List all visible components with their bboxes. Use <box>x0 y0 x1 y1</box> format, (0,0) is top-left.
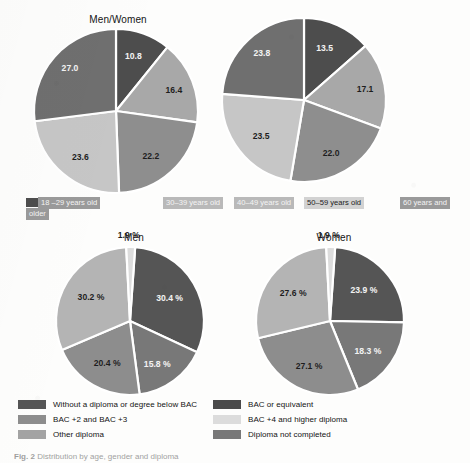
pie-canvas-men-women: 10.816.422.223.627.0 <box>28 27 208 195</box>
pie-svg-top-right <box>216 16 396 184</box>
pie-slice <box>222 18 304 100</box>
figure-root: Men/Women 10.816.422.223.627.0 13.517.12… <box>0 0 470 463</box>
diploma-legend-label-2: BAC +2 and BAC +3 <box>53 415 127 424</box>
pie-slice <box>256 247 330 338</box>
pie-title-men: Men <box>48 232 220 243</box>
diploma-legend-swatch-1 <box>213 400 241 409</box>
pie-chart-top-right: 13.517.122.023.523.8 <box>216 14 396 184</box>
pie-chart-men: Men 30.4 %15.8 %20.4 %30.2 %1.9 % <box>48 232 220 397</box>
pie-canvas-top-right: 13.517.122.023.523.8 <box>216 16 396 184</box>
diploma-legend-swatch-4 <box>18 430 46 439</box>
age-legend-item-4[interactable]: 60 years and <box>400 197 450 209</box>
diploma-legend-item-2[interactable]: BAC +2 and BAC +3 <box>18 415 127 424</box>
age-legend-item-1[interactable]: 30–39 years old <box>163 197 223 209</box>
figure-caption-text: Distribution by age, gender and diploma <box>37 452 178 461</box>
pie-svg-men-women <box>28 27 208 195</box>
diploma-legend-swatch-3 <box>213 415 241 424</box>
diploma-legend-swatch-2 <box>18 415 46 424</box>
diploma-legend-label-5: Diploma not completed <box>248 430 331 439</box>
pie-chart-women: Women 23.9 %18.3 %27.1 %27.6 %1.9 % <box>248 232 420 397</box>
diploma-legend: Without a diploma or degree below BAC BA… <box>0 398 470 446</box>
pie-title-men-women: Men/Women <box>28 14 208 25</box>
pie-svg-women <box>248 245 420 397</box>
age-legend: 18 –29 years old older 30–39 years old 4… <box>0 196 470 228</box>
pie-slice <box>116 111 197 193</box>
diploma-legend-label-3: BAC +4 and higher diploma <box>248 415 347 424</box>
pie-canvas-men: 30.4 %15.8 %20.4 %30.2 %1.9 % <box>48 245 220 397</box>
diploma-legend-item-1[interactable]: BAC or equivalent <box>213 400 313 409</box>
diploma-legend-label-1: BAC or equivalent <box>248 400 313 409</box>
pie-slice <box>222 94 304 181</box>
pie-slice <box>330 247 404 322</box>
age-legend-item-0-cont: older <box>26 208 49 220</box>
pie-slice <box>34 29 116 121</box>
diploma-legend-swatch-0 <box>18 400 46 409</box>
age-legend-item-2[interactable]: 40–49 years old <box>234 197 294 209</box>
diploma-legend-label-0: Without a diploma or degree below BAC <box>53 400 197 409</box>
age-legend-item-3[interactable]: 50–59 years old <box>304 197 364 209</box>
figure-caption: Fig. 2 Distribution by age, gender and d… <box>14 452 454 463</box>
diploma-legend-item-0[interactable]: Without a diploma or degree below BAC <box>18 400 197 409</box>
pie-slice <box>35 111 119 193</box>
diploma-legend-item-3[interactable]: BAC +4 and higher diploma <box>213 415 347 424</box>
figure-caption-label: Fig. 2 <box>14 452 35 461</box>
pie-svg-men <box>48 245 220 397</box>
pie-chart-men-women: Men/Women 10.816.422.223.627.0 <box>28 14 208 195</box>
diploma-legend-swatch-5 <box>213 430 241 439</box>
age-legend-swatch-0 <box>26 198 38 207</box>
diploma-legend-item-4[interactable]: Other diploma <box>18 430 104 439</box>
pie-canvas-women: 23.9 %18.3 %27.1 %27.6 %1.9 % <box>248 245 420 397</box>
diploma-legend-label-4: Other diploma <box>53 430 104 439</box>
pie-title-women: Women <box>248 232 420 243</box>
diploma-legend-item-5[interactable]: Diploma not completed <box>213 430 331 439</box>
